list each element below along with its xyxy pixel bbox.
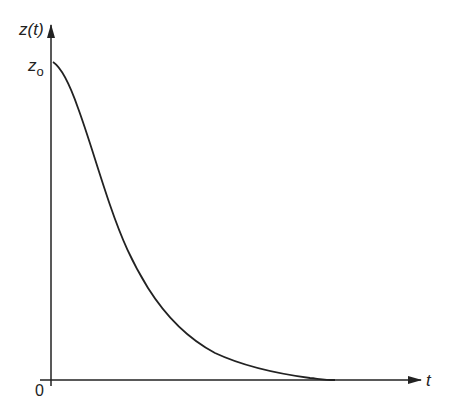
x-axis-label: t — [426, 371, 432, 390]
origin-label: 0 — [35, 382, 44, 399]
decay-diagram: z(t) t 0 zo — [0, 0, 460, 413]
y-axis-label: z(t) — [18, 20, 44, 39]
decay-curve — [53, 62, 335, 380]
z0-label: zo — [27, 56, 44, 79]
